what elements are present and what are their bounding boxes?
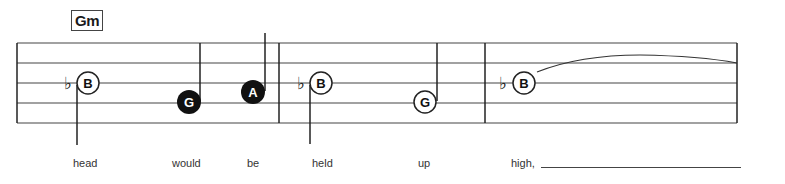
lyric-would: would — [172, 157, 201, 169]
lyric-extender-line — [541, 167, 741, 168]
note-letter: A — [248, 85, 258, 100]
lyric-up: up — [418, 157, 430, 169]
lyric-held: held — [312, 157, 333, 169]
note-a-1: A — [241, 33, 265, 104]
note-letter: B — [83, 76, 92, 91]
note-letter: G — [184, 95, 194, 110]
flat-icon: ♭ — [499, 73, 507, 93]
lyric-be: be — [247, 157, 259, 169]
flat-icon: ♭ — [64, 73, 72, 93]
flat-icon: ♭ — [297, 73, 305, 93]
note-bflat-2: ♭ B — [297, 72, 332, 144]
note-g-2: G — [414, 43, 437, 113]
note-bflat-1: ♭ B — [64, 72, 99, 145]
note-g-1: G — [177, 43, 201, 114]
note-letter: B — [519, 76, 528, 91]
note-letter: B — [316, 76, 325, 91]
lyric-head: head — [73, 157, 97, 169]
lyric-high: high, — [511, 157, 535, 169]
music-staff: ♭ B G A ♭ B G ♭ B — [0, 0, 785, 184]
note-bflat-3: ♭ B — [499, 55, 737, 94]
note-letter: G — [420, 95, 430, 110]
